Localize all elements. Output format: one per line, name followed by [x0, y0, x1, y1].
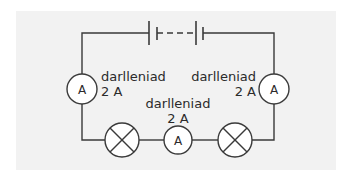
ammeter-caption: darlleniad: [101, 69, 166, 84]
ammeter-reading: 2 A: [101, 84, 122, 99]
ammeter-reading: 2 A: [167, 111, 188, 126]
lamp-icon: [105, 123, 139, 157]
ammeter-reading: 2 A: [235, 84, 256, 99]
ammeter-symbol: A: [270, 83, 279, 97]
lamp-icon: [218, 123, 252, 157]
ammeter-caption: darlleniad: [191, 69, 256, 84]
circuit-diagram: A darlleniad 2 A A darlleniad 2 A darlle…: [0, 0, 355, 179]
ammeter-middle: darlleniad 2 A A: [146, 96, 211, 154]
battery-icon: [149, 21, 203, 45]
ammeter-symbol: A: [174, 134, 183, 148]
ammeter-symbol: A: [78, 83, 87, 97]
ammeter-caption: darlleniad: [146, 96, 211, 111]
